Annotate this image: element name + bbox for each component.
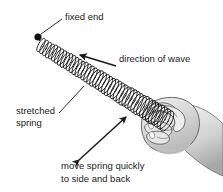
diagram-canvas: fixed end direction of wave stretched sp… [0, 0, 223, 192]
label-fixed-end: fixed end [65, 11, 104, 22]
label-move-spring-line1: move spring quickly [61, 160, 145, 171]
motion-double-arrow [79, 117, 126, 160]
stretched-spring [35, 37, 176, 133]
hand-illustration [141, 97, 223, 176]
fixed-end-dot [34, 33, 41, 40]
stretched-spring-leader-line [59, 86, 84, 113]
label-stretched-spring-line2: spring [16, 117, 42, 128]
spring-coils [35, 37, 176, 133]
spring-wave-diagram: fixed end direction of wave stretched sp… [0, 0, 223, 192]
label-stretched-spring-line1: stretched [16, 105, 55, 116]
fixed-end-annotation [34, 19, 62, 41]
fixed-end-leader-line [41, 19, 62, 34]
label-move-spring-line2: to side and back [61, 173, 130, 184]
label-direction-of-wave: direction of wave [119, 53, 190, 64]
